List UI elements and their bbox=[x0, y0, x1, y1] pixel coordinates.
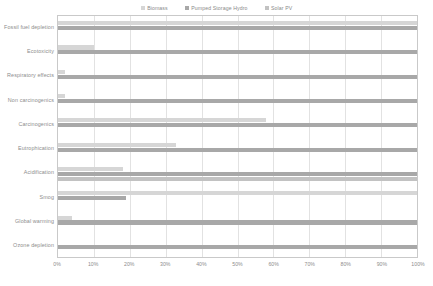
bar-rows bbox=[58, 16, 417, 257]
plot-area bbox=[57, 15, 418, 258]
bar-group[interactable] bbox=[58, 162, 417, 186]
x-tick-label: 40% bbox=[196, 261, 206, 268]
bar-group[interactable] bbox=[58, 16, 417, 40]
bar-pumped-storage-hydro[interactable] bbox=[58, 196, 126, 200]
bar-biomass[interactable] bbox=[58, 21, 417, 25]
legend-item-label: Biomass bbox=[147, 5, 168, 11]
x-tick-label: 20% bbox=[124, 261, 134, 268]
bar-track bbox=[58, 143, 417, 147]
legend-item-label: Solar PV bbox=[271, 5, 292, 11]
x-tick-label: 70% bbox=[304, 261, 314, 268]
x-tick-label: 60% bbox=[268, 261, 278, 268]
bar-biomass[interactable] bbox=[58, 94, 65, 98]
bar-track bbox=[58, 148, 417, 152]
bar-group[interactable] bbox=[58, 65, 417, 89]
bar-track bbox=[58, 94, 417, 98]
bar-solar-pv[interactable] bbox=[58, 177, 417, 181]
category-label: Acidification bbox=[0, 169, 54, 176]
bar-track bbox=[58, 99, 417, 103]
bar-group[interactable] bbox=[58, 235, 417, 259]
category-label: Ozone depletion bbox=[0, 242, 54, 249]
bar-track bbox=[58, 26, 417, 30]
bar-track bbox=[58, 21, 417, 25]
category-label: Global warming bbox=[0, 218, 54, 225]
category-label: Respiratory effects bbox=[0, 72, 54, 79]
bar-pumped-storage-hydro[interactable] bbox=[58, 99, 417, 103]
legend-swatch-icon bbox=[265, 6, 269, 10]
bar-biomass[interactable] bbox=[58, 167, 123, 171]
bar-group[interactable] bbox=[58, 186, 417, 210]
legend-item[interactable]: Biomass bbox=[141, 5, 168, 11]
bar-track bbox=[58, 225, 417, 229]
x-tick-label: 80% bbox=[341, 261, 351, 268]
bar-biomass[interactable] bbox=[58, 143, 176, 147]
bar-track bbox=[58, 240, 417, 244]
bar-track bbox=[58, 201, 417, 205]
chart-container: BiomassPumped Storage HydroSolar PV Foss… bbox=[0, 0, 433, 286]
chart-legend: BiomassPumped Storage HydroSolar PV bbox=[0, 1, 433, 14]
category-label: Carcinogenics bbox=[0, 121, 54, 128]
bar-pumped-storage-hydro[interactable] bbox=[58, 220, 417, 224]
bar-track bbox=[58, 167, 417, 171]
bar-track bbox=[58, 153, 417, 157]
bar-track bbox=[58, 250, 417, 254]
bar-biomass[interactable] bbox=[58, 45, 94, 49]
x-tick-label: 0% bbox=[53, 261, 61, 268]
bar-track bbox=[58, 128, 417, 132]
bar-biomass[interactable] bbox=[58, 70, 65, 74]
bar-pumped-storage-hydro[interactable] bbox=[58, 123, 417, 127]
bar-biomass[interactable] bbox=[58, 216, 72, 220]
bar-group[interactable] bbox=[58, 113, 417, 137]
x-tick-label: 10% bbox=[88, 261, 98, 268]
bar-group[interactable] bbox=[58, 40, 417, 64]
category-label: Ecotoxicity bbox=[0, 48, 54, 55]
bar-pumped-storage-hydro[interactable] bbox=[58, 75, 417, 79]
bar-track bbox=[58, 123, 417, 127]
bar-track bbox=[58, 191, 417, 195]
bar-pumped-storage-hydro[interactable] bbox=[58, 26, 417, 30]
legend-item-label: Pumped Storage Hydro bbox=[191, 5, 247, 11]
legend-item[interactable]: Solar PV bbox=[265, 5, 293, 11]
bar-track bbox=[58, 245, 417, 249]
x-tick-label: 90% bbox=[377, 261, 387, 268]
bar-track bbox=[58, 55, 417, 59]
bar-track bbox=[58, 75, 417, 79]
legend-item[interactable]: Pumped Storage Hydro bbox=[185, 5, 248, 11]
bar-track bbox=[58, 118, 417, 122]
legend-swatch-icon bbox=[141, 6, 145, 10]
bar-track bbox=[58, 45, 417, 49]
bar-biomass[interactable] bbox=[58, 118, 266, 122]
category-label: Fossil fuel depletion bbox=[0, 24, 54, 31]
bar-track bbox=[58, 172, 417, 176]
bar-pumped-storage-hydro[interactable] bbox=[58, 148, 417, 152]
bar-track bbox=[58, 196, 417, 200]
y-axis-category-labels: Fossil fuel depletionEcotoxicityRespirat… bbox=[0, 15, 54, 258]
category-label: Non carcinogenics bbox=[0, 97, 54, 104]
bar-pumped-storage-hydro[interactable] bbox=[58, 172, 417, 176]
bar-group[interactable] bbox=[58, 210, 417, 234]
bar-group[interactable] bbox=[58, 89, 417, 113]
bar-track bbox=[58, 104, 417, 108]
category-label: Eutrophication bbox=[0, 145, 54, 152]
bar-track bbox=[58, 177, 417, 181]
category-label: Smog bbox=[0, 194, 54, 201]
x-tick-label: 100% bbox=[411, 261, 424, 268]
bar-biomass[interactable] bbox=[58, 191, 417, 195]
bar-track bbox=[58, 80, 417, 84]
bar-pumped-storage-hydro[interactable] bbox=[58, 245, 417, 249]
bar-track bbox=[58, 50, 417, 54]
x-tick-label: 50% bbox=[232, 261, 242, 268]
x-tick-label: 30% bbox=[160, 261, 170, 268]
x-axis-tick-labels: 0%10%20%30%40%50%60%70%80%90%100% bbox=[57, 261, 418, 271]
bar-track bbox=[58, 31, 417, 35]
bar-track bbox=[58, 220, 417, 224]
bar-pumped-storage-hydro[interactable] bbox=[58, 50, 417, 54]
bar-track bbox=[58, 70, 417, 74]
bar-group[interactable] bbox=[58, 138, 417, 162]
bar-track bbox=[58, 216, 417, 220]
legend-swatch-icon bbox=[185, 6, 189, 10]
